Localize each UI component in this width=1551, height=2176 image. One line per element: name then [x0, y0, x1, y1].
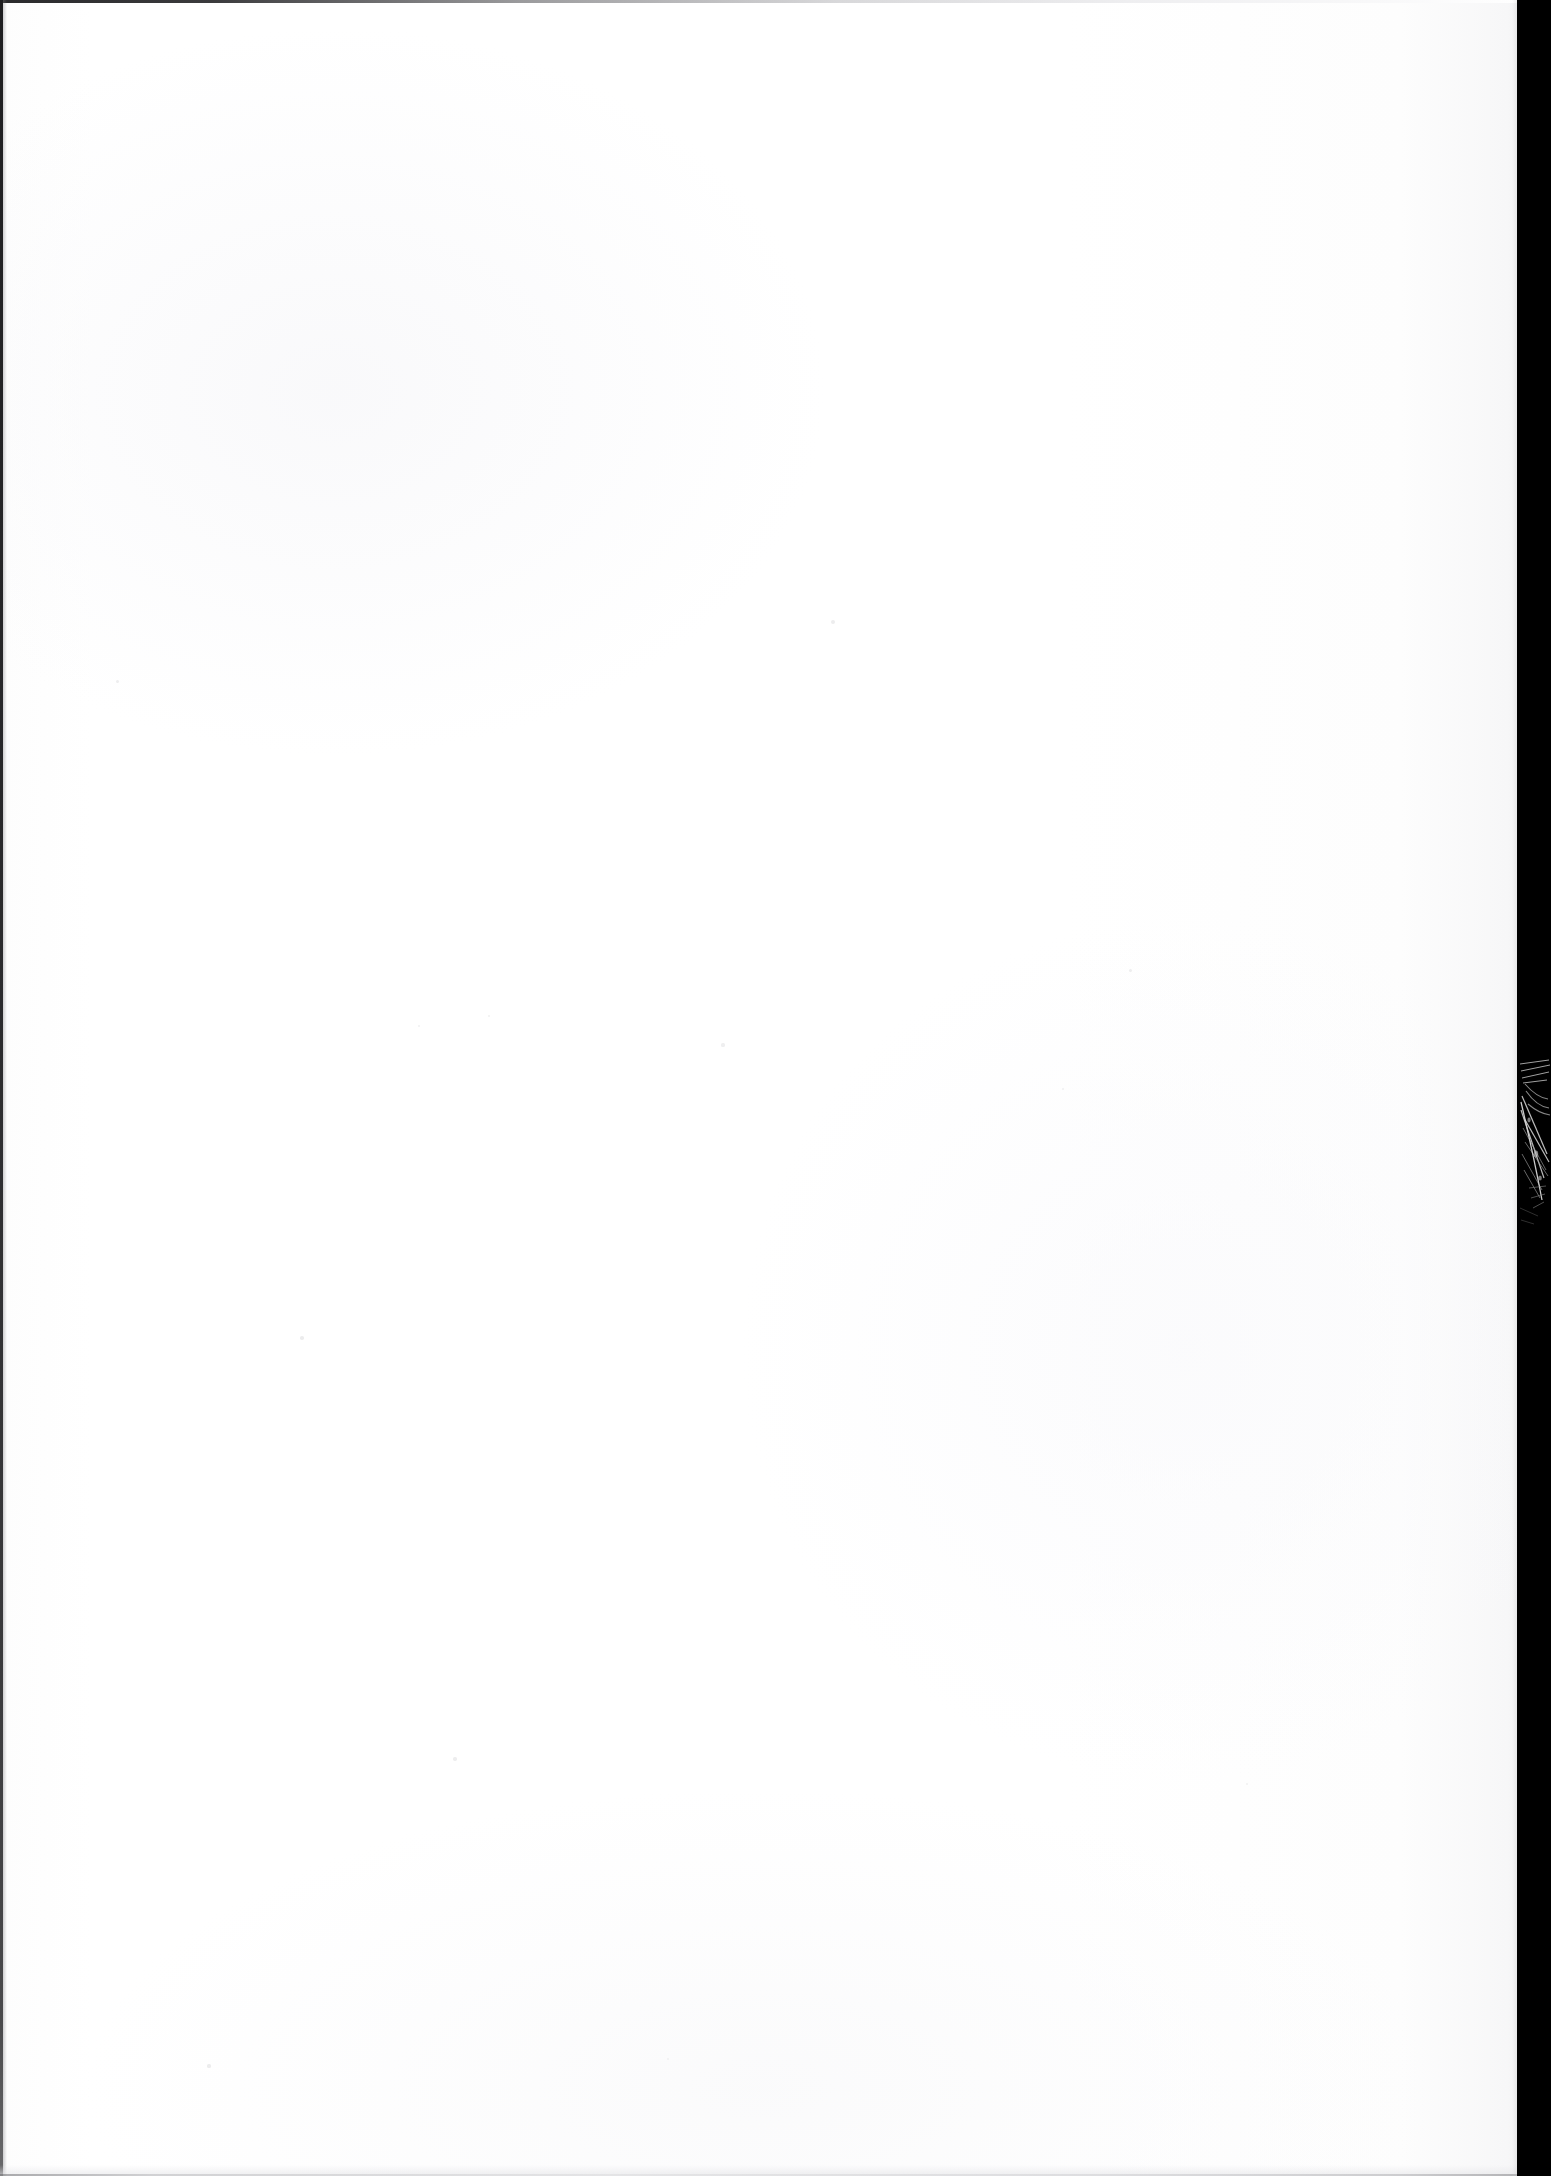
scan-edge-top [0, 0, 1522, 3]
paper-tone-overlay [0, 0, 1522, 2176]
paper-sheet [0, 0, 1522, 2176]
scan-edge-bottom-falloff [0, 2165, 1522, 2174]
scanned-page-image [0, 0, 1551, 2176]
scan-edge-left-falloff [3, 0, 7, 2176]
scanner-background-strip [1517, 0, 1551, 2176]
